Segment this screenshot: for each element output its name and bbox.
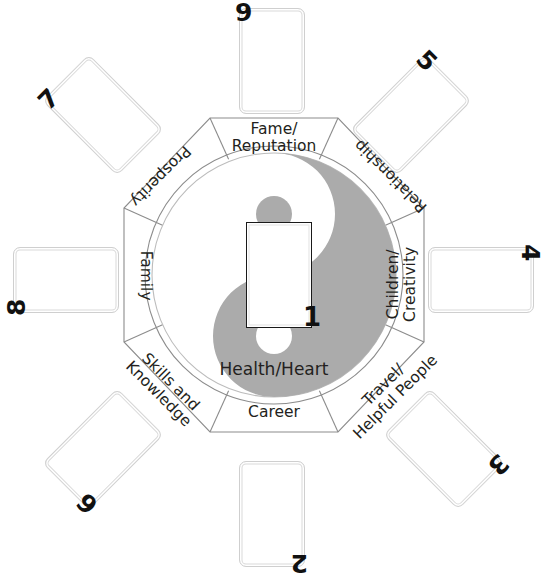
card-number-label: 8 [4,299,29,316]
card-number-label: 9 [235,0,252,25]
sector-label-career: Career [199,404,349,421]
center-card[interactable]: 1 [246,222,312,328]
health-heart-label: Health/Heart [220,359,329,379]
sector-label-fame: Fame/ Reputation [199,121,349,156]
card-number-label: 4 [518,244,543,261]
outer-card-4[interactable]: 4 [428,247,534,313]
outer-card-9[interactable]: 9 [239,8,305,114]
sector-label-children: Children/ Creativity [385,224,420,344]
card-number-label: 2 [291,551,308,574]
center-card-number-label: 1 [303,304,321,330]
outer-card-8[interactable]: 8 [13,247,119,313]
sector-label-family: Family [136,221,153,331]
bagua-diagram: 9 5 4 3 2 6 8 7 [0,0,548,574]
outer-card-2[interactable]: 2 [239,461,305,567]
